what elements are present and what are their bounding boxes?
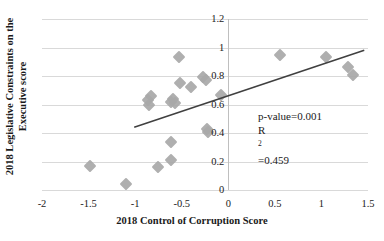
x-tick-label: -2 bbox=[38, 199, 47, 210]
y-tick-label: 0.2 bbox=[194, 156, 224, 167]
p-value-text: p-value=0.001 bbox=[258, 110, 322, 124]
y-axis-title-line-2: Executive score bbox=[16, 0, 29, 197]
y-tick-label: 0 bbox=[194, 185, 224, 196]
statistics-annotation: p-value=0.001 R2=0.459 bbox=[258, 110, 322, 168]
y-tick-label: 1 bbox=[194, 42, 224, 53]
x-tick-label: 1 bbox=[319, 199, 324, 210]
r-squared-text: R2=0.459 bbox=[258, 124, 322, 168]
y-tick-label: 0.6 bbox=[194, 99, 224, 110]
y-axis-title: 2018 Legislative Constraints on the Exec… bbox=[4, 0, 29, 197]
x-tick-label: 0.5 bbox=[268, 199, 281, 210]
y-axis-title-line-1: 2018 Legislative Constraints on the bbox=[4, 0, 17, 197]
x-tick-label: 0 bbox=[226, 199, 231, 210]
r-squared-prefix: R bbox=[258, 124, 322, 138]
scatter-chart: 00.20.40.60.811.2 -2-1.5-1-0.500.511.5 2… bbox=[0, 0, 384, 241]
r-squared-exponent: 2 bbox=[258, 139, 262, 148]
y-tick-label: 1.2 bbox=[194, 14, 224, 25]
r-squared-value: =0.459 bbox=[258, 154, 322, 168]
y-tick-label: 0.8 bbox=[194, 71, 224, 82]
x-axis-title: 2018 Control of Corruption Score bbox=[0, 215, 384, 226]
trendline-segment bbox=[134, 50, 364, 127]
x-tick-label: -0.5 bbox=[173, 199, 190, 210]
y-tick-label: 0.4 bbox=[194, 128, 224, 139]
x-tick-label: -1.5 bbox=[80, 199, 97, 210]
x-tick-label: 1.5 bbox=[361, 199, 374, 210]
x-tick-label: -1 bbox=[131, 199, 140, 210]
